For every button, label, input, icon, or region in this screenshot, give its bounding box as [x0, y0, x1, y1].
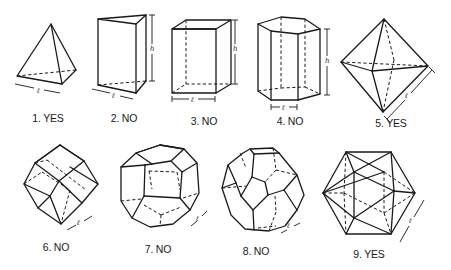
- label-hexagonal-prism: 4. NO: [277, 115, 303, 127]
- octahedron-figure: ℓ: [341, 19, 435, 122]
- polyhedra-diagram: ℓ h ℓ: [0, 0, 451, 270]
- length-symbol: ℓ: [408, 217, 412, 225]
- length-symbol: ℓ: [76, 219, 80, 227]
- height-symbol: h: [233, 45, 238, 53]
- label-rhombic-dodecahedron: 6. NO: [43, 241, 69, 253]
- length-symbol: ℓ: [36, 87, 40, 95]
- square-prism-figure: h ℓ: [172, 20, 238, 104]
- length-symbol: ℓ: [190, 96, 194, 104]
- label-square-prism: 3. NO: [191, 115, 217, 127]
- truncated-octahedron-figure: ℓ: [222, 148, 304, 233]
- height-symbol: h: [150, 45, 155, 53]
- length-symbol: ℓ: [281, 104, 285, 112]
- label-icosahedron: 9. YES: [353, 248, 384, 260]
- label-tetrahedron: 1. YES: [32, 112, 63, 124]
- hexagonal-prism-figure: h ℓ: [258, 17, 330, 112]
- length-symbol: ℓ: [111, 92, 115, 100]
- height-symbol: h: [325, 57, 330, 65]
- label-triangular-prism: 2. NO: [111, 112, 137, 124]
- polyhedra-drawing: ℓ h ℓ: [0, 0, 451, 270]
- length-symbol: ℓ: [404, 92, 408, 100]
- icosahedron-figure: ℓ: [323, 152, 424, 242]
- rhombic-dodecahedron-figure: ℓ: [24, 145, 98, 230]
- label-octahedron: 5. YES: [375, 117, 406, 129]
- length-symbol: ℓ: [286, 222, 290, 230]
- tetrahedron-figure: ℓ: [15, 24, 76, 95]
- label-truncated-octahedron: 8. NO: [243, 245, 269, 257]
- length-symbol: ℓ: [195, 215, 199, 223]
- triangular-prism-figure: h ℓ: [92, 15, 155, 100]
- label-pentagonal-dodecahedron: 7. NO: [145, 243, 171, 255]
- pentagonal-dodecahedron-figure: ℓ: [121, 145, 207, 227]
